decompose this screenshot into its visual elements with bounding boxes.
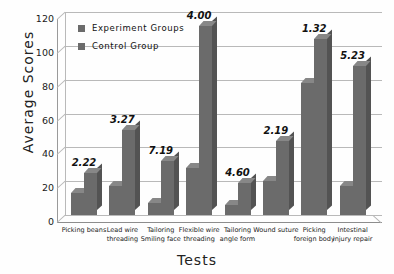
axis-floor-front xyxy=(57,222,382,223)
bar-face xyxy=(122,130,135,215)
gridline xyxy=(65,12,382,13)
data-label: 3.27 xyxy=(99,114,145,125)
chart-legend: Experiment Groups Control Group xyxy=(78,23,184,59)
legend-item-control: Control Group xyxy=(78,41,184,51)
legend-swatch-experiment-icon xyxy=(78,25,85,32)
data-label: 7.19 xyxy=(138,145,184,156)
data-label: 5.23 xyxy=(330,50,376,61)
y-axis-title: Average Scores xyxy=(20,12,36,172)
y-axis-tick-label: 40 xyxy=(14,149,54,159)
y-axis-tick-label: 120 xyxy=(14,14,54,24)
bar-experiment xyxy=(148,203,161,215)
bar-side xyxy=(212,16,217,210)
x-axis-title: Tests xyxy=(0,252,394,268)
data-label: 2.22 xyxy=(61,157,107,168)
legend-label-experiment: Experiment Groups xyxy=(92,23,184,33)
bar-face xyxy=(276,141,289,215)
bar-experiment xyxy=(263,181,276,215)
bar-face xyxy=(301,83,314,215)
bar-experiment xyxy=(340,186,353,215)
bar-side xyxy=(135,121,140,210)
bar-control xyxy=(314,39,327,215)
x-axis-category-label: Intestinalinjury repair xyxy=(329,226,377,244)
legend-label-control: Control Group xyxy=(92,41,159,51)
bar-face xyxy=(263,181,276,215)
bar-face xyxy=(84,173,97,215)
bar-control xyxy=(84,173,97,215)
bar-face xyxy=(161,161,174,215)
bar-face xyxy=(238,183,251,215)
data-label: 2.19 xyxy=(253,125,299,136)
bar-face xyxy=(186,168,199,215)
bar-group xyxy=(263,19,301,222)
data-label: 4.60 xyxy=(215,167,261,178)
bar-experiment xyxy=(186,168,199,215)
bar-side xyxy=(366,57,371,210)
bar-group xyxy=(225,19,263,222)
bar-side xyxy=(289,131,294,210)
bar-chart: Average Scores Tests 020406080100120 2.2… xyxy=(0,0,394,274)
bar-control xyxy=(276,141,289,215)
y-axis-tick-label: 20 xyxy=(14,183,54,193)
y-axis-tick-label: 60 xyxy=(14,116,54,126)
bar-face xyxy=(225,205,238,215)
bar-group xyxy=(186,19,224,222)
data-label: 1.32 xyxy=(291,23,337,34)
y-axis-tick-label: 100 xyxy=(14,48,54,58)
bar-face xyxy=(148,203,161,215)
bar-control xyxy=(353,66,366,215)
data-label: 4.00 xyxy=(176,10,222,21)
bar-control xyxy=(199,26,212,215)
bar-face xyxy=(353,66,366,215)
bar-face xyxy=(109,186,122,215)
legend-item-experiment: Experiment Groups xyxy=(78,23,184,33)
y-axis-tick-label: 80 xyxy=(14,82,54,92)
bar-control xyxy=(238,183,251,215)
bar-control xyxy=(122,130,135,215)
bar-face xyxy=(314,39,327,215)
bar-control xyxy=(161,161,174,215)
bar-face xyxy=(71,193,84,215)
legend-swatch-control-icon xyxy=(78,43,85,50)
bar-experiment xyxy=(71,193,84,215)
bar-face xyxy=(340,186,353,215)
x-axis-category-labels: Picking beansLead wirethreadingTailoring… xyxy=(57,226,391,252)
bar-experiment xyxy=(301,83,314,215)
bar-face xyxy=(199,26,212,215)
bar-experiment xyxy=(225,205,238,215)
y-axis-tick-label: 0 xyxy=(14,217,54,227)
bar-experiment xyxy=(109,186,122,215)
